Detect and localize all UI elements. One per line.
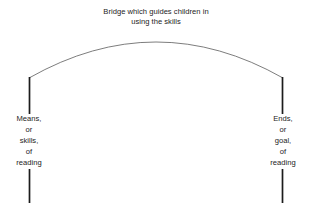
right-pier-line-5: reading	[246, 158, 312, 169]
left-pier-line-3: skills,	[0, 136, 66, 147]
bridge-diagram: Bridge which guides children in using th…	[0, 0, 312, 215]
bridge-arc	[29, 42, 283, 78]
left-pier-line-1: Means,	[0, 114, 66, 125]
left-pier-line-4: of	[0, 147, 66, 158]
right-pier-line-1: Ends,	[246, 114, 312, 125]
right-pier-line-2: or	[246, 125, 312, 136]
right-pier-line-4: of	[246, 147, 312, 158]
bridge-graphic	[0, 0, 312, 215]
left-pier-line-5: reading	[0, 158, 66, 169]
left-pier-label: Means, or skills, of reading	[0, 114, 66, 169]
right-pier-line-3: goal,	[246, 136, 312, 147]
caption-line-1: Bridge which guides children in	[0, 7, 312, 17]
caption-line-2: using the skills	[0, 17, 312, 27]
left-pier-line-2: or	[0, 125, 66, 136]
right-pier-label: Ends, or goal, of reading	[246, 114, 312, 169]
bridge-caption: Bridge which guides children in using th…	[0, 7, 312, 27]
